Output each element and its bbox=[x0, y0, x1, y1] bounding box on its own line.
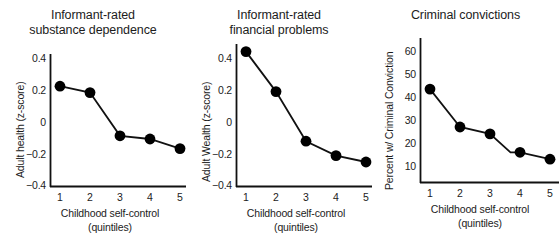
data-point bbox=[361, 157, 372, 168]
x-axis-label-line1: Childhood self-control bbox=[34, 206, 186, 220]
x-axis-label-line2: (quintiles) bbox=[404, 216, 556, 230]
data-point bbox=[301, 136, 312, 147]
x-tick-label: 2 bbox=[268, 191, 284, 203]
x-axis-label-line2: (quintiles) bbox=[34, 220, 186, 234]
x-axis-label-line1: Childhood self-control bbox=[404, 202, 556, 216]
x-tick-label: 4 bbox=[328, 191, 344, 203]
x-tick-label: 4 bbox=[512, 187, 528, 199]
data-point bbox=[175, 143, 186, 154]
data-point bbox=[145, 134, 156, 145]
series-line bbox=[430, 89, 550, 159]
data-point bbox=[115, 130, 126, 141]
chart-panel-criminal-convictions: Criminal convictions Percent w/ Criminal… bbox=[372, 0, 559, 242]
x-tick-label: 2 bbox=[452, 187, 468, 199]
chart-panel-substance-dependence: Informant-rated substance dependence Adu… bbox=[0, 0, 186, 242]
data-point bbox=[455, 122, 466, 133]
data-point bbox=[485, 129, 496, 140]
data-point bbox=[425, 84, 436, 95]
data-point bbox=[85, 87, 96, 98]
data-point bbox=[515, 147, 526, 158]
x-tick-label: 2 bbox=[82, 191, 98, 203]
x-tick-label: 3 bbox=[298, 191, 314, 203]
x-tick-label: 4 bbox=[142, 191, 158, 203]
data-point bbox=[331, 150, 342, 161]
x-tick-label: 1 bbox=[422, 187, 438, 199]
data-point bbox=[271, 86, 282, 97]
x-tick-label: 1 bbox=[52, 191, 68, 203]
figure-panel-group: Informant-rated substance dependence Adu… bbox=[0, 0, 559, 242]
chart-panel-financial-problems: Informant-rated financial problems Adult… bbox=[186, 0, 372, 242]
x-tick-label: 1 bbox=[238, 191, 254, 203]
data-point bbox=[545, 154, 556, 165]
data-point bbox=[241, 46, 252, 57]
x-tick-label: 5 bbox=[542, 187, 558, 199]
data-point bbox=[55, 81, 66, 92]
x-axis-label-line1: Childhood self-control bbox=[220, 206, 372, 220]
x-tick-label: 3 bbox=[112, 191, 128, 203]
x-tick-label: 3 bbox=[482, 187, 498, 199]
x-axis-label-line2: (quintiles) bbox=[220, 220, 372, 234]
